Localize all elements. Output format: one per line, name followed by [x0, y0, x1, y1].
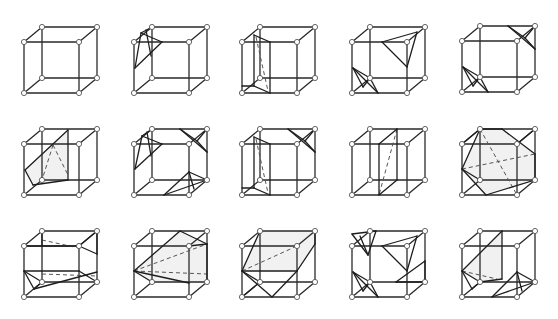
vertex-marker: [349, 141, 354, 146]
vertex-marker: [312, 177, 317, 182]
vertex-marker: [459, 38, 464, 43]
vertex-marker: [149, 177, 154, 182]
vertex-marker: [477, 228, 482, 233]
vertex-marker: [312, 279, 317, 284]
vertex-marker: [294, 294, 299, 299]
cube-edge: [79, 78, 97, 93]
cube-diagram-r1c2: [131, 24, 209, 95]
vertex-marker: [94, 126, 99, 131]
vertex-marker: [204, 228, 209, 233]
cube-edge: [24, 129, 42, 144]
vertex-marker: [367, 177, 372, 182]
vertex-marker: [204, 24, 209, 29]
vertex-marker: [149, 126, 154, 131]
section-line: [180, 129, 197, 141]
cube-edge: [352, 129, 370, 144]
vertex-marker: [404, 141, 409, 146]
vertex-marker: [514, 141, 519, 146]
vertex-marker: [294, 141, 299, 146]
cube-edge: [407, 282, 425, 297]
vertex-marker: [477, 74, 482, 79]
cube-edge: [517, 231, 535, 246]
vertex-marker: [349, 192, 354, 197]
cube-edge: [462, 26, 480, 41]
vertex-marker: [404, 192, 409, 197]
section-line: [382, 42, 407, 67]
section-line: [517, 129, 535, 144]
vertex-marker: [186, 192, 191, 197]
cube-edge: [242, 27, 260, 42]
section-line: [492, 282, 535, 297]
cube-edge: [79, 27, 97, 42]
cube-edge: [134, 180, 152, 195]
hidden-line: [42, 240, 79, 248]
vertex-marker: [21, 39, 26, 44]
vertex-marker: [21, 294, 26, 299]
vertex-marker: [349, 39, 354, 44]
section-line: [197, 141, 207, 152]
vertex-marker: [367, 126, 372, 131]
cube-edge: [352, 27, 370, 42]
vertex-marker: [94, 75, 99, 80]
vertex-marker: [186, 90, 191, 95]
vertex-marker: [239, 243, 244, 248]
vertex-marker: [459, 141, 464, 146]
vertex-marker: [312, 126, 317, 131]
vertex-marker: [76, 192, 81, 197]
cube-edge: [189, 27, 207, 42]
section-line: [382, 32, 417, 42]
vertex-marker: [532, 228, 537, 233]
vertex-marker: [459, 243, 464, 248]
cube-edge: [134, 78, 152, 93]
hidden-line: [256, 37, 268, 91]
cube-diagram-r1c3: [239, 24, 317, 95]
vertex-marker: [532, 279, 537, 284]
cube-edge: [407, 129, 425, 144]
cube-edge: [352, 282, 370, 297]
vertex-marker: [422, 75, 427, 80]
cube-diagram-r2c5: [459, 126, 537, 197]
section-line: [382, 236, 417, 246]
vertex-marker: [94, 177, 99, 182]
section-line: [146, 30, 151, 56]
cube-edge: [352, 180, 370, 195]
cube-edge: [189, 78, 207, 93]
vertex-marker: [149, 228, 154, 233]
vertex-marker: [39, 126, 44, 131]
vertex-marker: [514, 192, 519, 197]
vertex-marker: [257, 228, 262, 233]
vertex-marker: [204, 126, 209, 131]
vertex-marker: [131, 90, 136, 95]
vertex-marker: [21, 192, 26, 197]
vertex-marker: [514, 38, 519, 43]
vertex-marker: [76, 39, 81, 44]
vertex-marker: [239, 90, 244, 95]
vertex-marker: [404, 39, 409, 44]
vertex-marker: [39, 75, 44, 80]
vertex-marker: [312, 24, 317, 29]
vertex-marker: [76, 90, 81, 95]
vertex-marker: [532, 126, 537, 131]
cube-edge: [462, 180, 480, 195]
vertex-marker: [422, 279, 427, 284]
vertex-marker: [404, 90, 409, 95]
vertex-marker: [39, 279, 44, 284]
vertex-marker: [21, 90, 26, 95]
cube-diagram-r2c3: [239, 126, 317, 197]
cube-edge: [297, 282, 315, 297]
cube-edge: [189, 282, 207, 297]
vertex-marker: [149, 75, 154, 80]
cube-edge: [79, 180, 97, 195]
vertex-marker: [422, 228, 427, 233]
vertex-marker: [94, 24, 99, 29]
cube-edge: [79, 129, 97, 144]
vertex-marker: [514, 243, 519, 248]
section-line: [164, 172, 189, 195]
section-line: [379, 180, 397, 195]
vertex-marker: [312, 228, 317, 233]
vertex-marker: [149, 279, 154, 284]
cube-edge: [297, 180, 315, 195]
cube-diagram-r1c4: [349, 24, 427, 95]
cube-edge: [134, 282, 152, 297]
section-line: [288, 129, 305, 141]
